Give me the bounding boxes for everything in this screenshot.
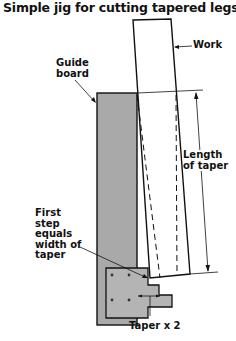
screw xyxy=(111,299,114,302)
screw xyxy=(128,274,131,277)
arrow-head-up xyxy=(194,92,199,99)
extension-line-bottom xyxy=(190,272,218,274)
guide-board-label-line2: board xyxy=(56,69,89,80)
taper-x2-label: Taper x 2 xyxy=(129,321,181,332)
length-label-line1: Length xyxy=(183,150,228,161)
first-step-line5: taper xyxy=(35,250,81,261)
guide-board-label-line1: Guide xyxy=(56,58,89,69)
guide-board-leader xyxy=(75,80,95,102)
work-label: Work xyxy=(193,40,222,51)
screw xyxy=(128,299,131,302)
work-arrow-head xyxy=(174,45,179,49)
length-dimension-line xyxy=(196,93,208,271)
guide-board-label: Guide board xyxy=(56,58,89,79)
work-piece xyxy=(133,19,190,278)
screw xyxy=(111,274,114,277)
first-step-label: First step equals width of taper xyxy=(35,208,81,261)
first-step-line3: equals xyxy=(35,229,81,240)
length-of-taper-label: Length of taper xyxy=(183,150,228,171)
length-label-line2: of taper xyxy=(183,161,228,172)
first-step-line1: First xyxy=(35,208,81,219)
arrow-head-down xyxy=(206,265,211,272)
